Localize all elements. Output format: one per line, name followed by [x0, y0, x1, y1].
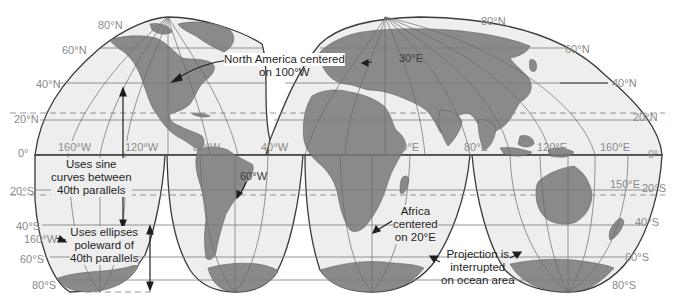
lat-label-right-80n: 80°N — [481, 15, 506, 27]
lon-label-80w: 80°W — [193, 141, 220, 153]
lat-label-left-20n: 20°N — [14, 113, 39, 125]
label-30e: 30°E — [399, 52, 423, 64]
annotation-north-america-line2: on 100°W — [224, 66, 345, 79]
lat-label-right-80s: 80°S — [612, 279, 636, 291]
lat-label-left-40s: 40°S — [16, 220, 40, 232]
annotation-interrupted-line2: interrupted — [441, 261, 515, 274]
lat-label-right-60s: 60°S — [625, 251, 649, 263]
lat-label-right-40n: 40°N — [612, 77, 637, 89]
lat-label-left-80s: 80°S — [32, 279, 56, 291]
annotation-sine-line3: 40th parallels — [51, 184, 132, 197]
lat-label-left-40n: 40°N — [36, 78, 61, 90]
lat-label-right-0: 0° — [648, 148, 659, 160]
annotation-ellipses-line3: 40th parallels — [70, 252, 138, 265]
lon-label-80e: 80°E — [464, 141, 488, 153]
lat-label-right-40s: 40°S — [635, 216, 659, 228]
lat-label-left-60s: 60°S — [20, 253, 44, 265]
annotation-sine-line1: Uses sine — [51, 158, 132, 171]
lon-label-40w: 40°W — [261, 141, 288, 153]
annotation-ellipses-line1: Uses ellipses — [70, 226, 138, 239]
annotation-north-america-line1: North America centered — [224, 53, 345, 66]
lat-label-left-60n: 60°N — [62, 44, 87, 56]
lon-label-40e: 40°E — [395, 141, 419, 153]
annotation-africa: Africa centered on 20°E — [393, 205, 438, 244]
lat-label-right-20s: 20°S — [642, 182, 666, 194]
lat-label-right-20n: 20°N — [633, 111, 658, 123]
lat-label-left-20s: 20°S — [10, 185, 34, 197]
annotation-africa-line1: Africa — [393, 205, 438, 218]
lon-label-120w: 120°W — [125, 141, 158, 153]
lon-label-0: 0° — [335, 141, 346, 153]
lon-label-120e: 120°E — [537, 141, 567, 153]
label-150e: 150°E — [610, 178, 640, 190]
label-60w: 60°W — [240, 170, 267, 182]
annotation-sine-curves: Uses sine curves between 40th parallels — [51, 158, 132, 197]
lon-label-160e: 160°E — [600, 141, 630, 153]
annotation-ellipses-line2: poleward of — [70, 239, 138, 252]
lat-label-left-0: 0° — [18, 147, 29, 159]
lon-label-160w: 160°W — [58, 141, 91, 153]
lat-label-right-60n: 60°N — [565, 43, 590, 55]
annotation-interrupted-line3: on ocean area — [441, 274, 515, 287]
annotation-interrupted: Projection is interrupted on ocean area — [441, 248, 515, 287]
label-160w-south: 160°W — [24, 233, 57, 245]
lat-label-left-80n: 80°N — [98, 19, 123, 31]
japan — [529, 59, 536, 71]
annotation-interrupted-line1: Projection is — [441, 248, 515, 261]
annotation-sine-line2: curves between — [51, 171, 132, 184]
annotation-ellipses: Uses ellipses poleward of 40th parallels — [70, 226, 138, 265]
annotation-africa-line2: centered — [393, 218, 438, 231]
annotation-africa-line3: on 20°E — [393, 231, 438, 244]
annotation-north-america: North America centered on 100°W — [224, 53, 345, 79]
